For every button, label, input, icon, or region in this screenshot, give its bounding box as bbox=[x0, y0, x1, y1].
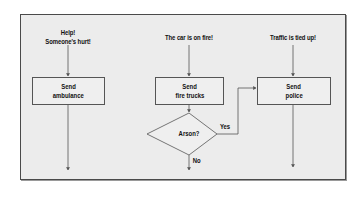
action-send-police: Send police bbox=[257, 77, 331, 105]
action-send-fire-trucks: Send fire trucks bbox=[155, 77, 224, 105]
trigger-car-fire: The car is on fire! bbox=[151, 33, 228, 42]
trigger-traffic: Traffic is tied up! bbox=[255, 33, 332, 42]
action-line: Send bbox=[182, 82, 197, 91]
action-line: Send bbox=[287, 82, 302, 91]
decision-no-label: No bbox=[193, 157, 201, 164]
decision-yes-label: Yes bbox=[220, 123, 230, 130]
trigger-line: Traffic is tied up! bbox=[255, 33, 332, 42]
trigger-line: Help! bbox=[34, 28, 102, 37]
action-line: police bbox=[285, 91, 302, 100]
action-line: ambulance bbox=[53, 91, 84, 100]
trigger-line: Someone's hurt! bbox=[34, 37, 102, 46]
trigger-line: The car is on fire! bbox=[151, 33, 228, 42]
trigger-someone-hurt: Help! Someone's hurt! bbox=[34, 28, 102, 46]
action-send-ambulance: Send ambulance bbox=[32, 77, 105, 105]
action-line: Send bbox=[61, 82, 76, 91]
action-line: fire trucks bbox=[175, 91, 204, 100]
decision-arson-label: Arson? bbox=[175, 130, 204, 137]
